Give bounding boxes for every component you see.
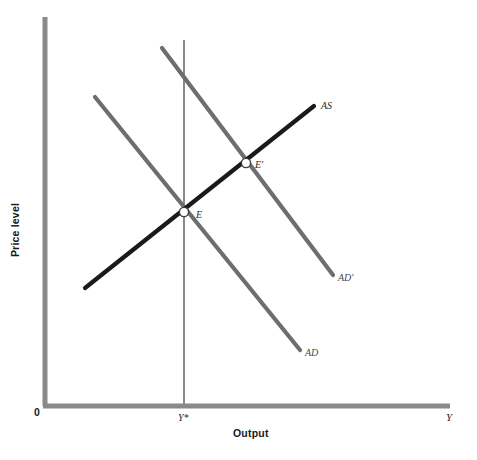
ad-curve-label: AD bbox=[305, 348, 318, 358]
y-axis-title: Price level bbox=[10, 203, 21, 257]
ad-curve bbox=[95, 97, 300, 350]
as-curve bbox=[85, 106, 314, 288]
origin-tick-label: 0 bbox=[34, 407, 40, 418]
y-star-tick-label: Y* bbox=[178, 413, 189, 423]
equilibrium-label-e: E bbox=[196, 210, 202, 220]
equilibrium-label-e-prime: E' bbox=[255, 160, 263, 170]
plot-area bbox=[0, 0, 477, 460]
ad-as-diagram: AS AD' AD E E' 0 Y* Y Output Price level bbox=[0, 0, 477, 460]
x-axis-symbol-label: Y bbox=[446, 412, 452, 423]
equilibrium-marker-e-prime bbox=[241, 158, 250, 167]
y-axis-title-wrapper: Price level bbox=[8, 190, 22, 270]
ad-prime-curve-label: AD' bbox=[338, 273, 353, 283]
x-axis-title: Output bbox=[233, 428, 269, 439]
as-curve-label: AS bbox=[321, 101, 332, 111]
equilibrium-marker-e bbox=[179, 207, 188, 216]
